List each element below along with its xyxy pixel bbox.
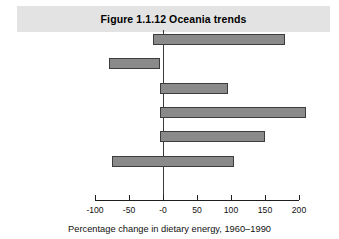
axis-tick [129,195,130,200]
axis-tick-label: -50 [123,205,135,215]
value-axis: Percentage change in dietary energy, 196… [0,200,339,239]
bar [112,156,234,167]
axis-line [95,200,299,201]
plot-area [0,32,339,200]
bar [160,83,228,94]
axis-tick [265,195,266,200]
axis-title: Percentage change in dietary energy, 196… [0,224,339,234]
bar [160,131,265,142]
axis-tick [197,195,198,200]
bar-chart: Percentage change in dietary energy, 196… [0,32,339,239]
axis-tick [163,195,164,200]
axis-tick-label: -100 [86,205,103,215]
axis-tick-label: 150 [258,205,272,215]
bar [109,58,160,69]
figure-title-banner: Figure 1.1.12 Oceania trends [17,6,330,32]
axis-tick-label: 50 [192,205,202,215]
bar [160,107,306,118]
axis-tick-label: -0 [159,205,167,215]
axis-tick-label: 200 [292,205,306,215]
axis-tick [95,195,96,200]
axis-tick [299,195,300,200]
bar [153,34,286,45]
axis-tick-label: 100 [224,205,238,215]
page-title: Figure 1.1.12 Oceania trends [101,13,247,25]
axis-tick [231,195,232,200]
